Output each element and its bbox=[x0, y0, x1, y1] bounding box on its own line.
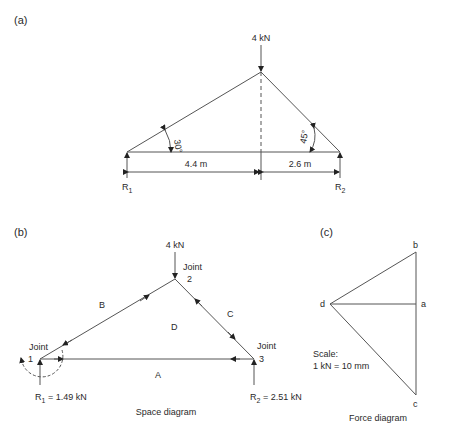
space-d-label: D bbox=[171, 322, 178, 332]
dim-right-label: 2.6 m bbox=[289, 159, 312, 169]
scale-label: Scale: bbox=[313, 349, 338, 359]
space-c-label: C bbox=[227, 309, 234, 319]
joint1-num: 1 bbox=[28, 354, 33, 364]
member-arrow-icon bbox=[140, 295, 149, 301]
load-label-b: 4 kN bbox=[166, 240, 185, 250]
panel-b-label: (b) bbox=[14, 226, 27, 238]
r1-label: R1 bbox=[122, 182, 133, 194]
joint3-num: 3 bbox=[259, 354, 264, 364]
panel-a-label: (a) bbox=[14, 14, 27, 26]
truss-members-b bbox=[40, 279, 254, 359]
angle-arc-30-icon bbox=[165, 130, 171, 152]
angle-45-label: 45° bbox=[298, 129, 310, 145]
point-a-label: a bbox=[421, 299, 426, 309]
space-b-label: B bbox=[99, 300, 105, 310]
truss-diagram: (a) 4 kN 30° 45° 4.4 m 2.6 m R1 R2 (b) 4… bbox=[0, 0, 449, 439]
force-triangle bbox=[330, 252, 416, 395]
member-arrow-icon bbox=[63, 340, 72, 345]
scale-value: 1 kN = 10 mm bbox=[313, 361, 369, 371]
space-diagram-caption: Space diagram bbox=[136, 407, 197, 417]
joint3-label: Joint bbox=[257, 341, 277, 351]
load-label: 4 kN bbox=[252, 33, 271, 43]
joint1-label: Joint bbox=[29, 342, 49, 352]
point-d-label: d bbox=[320, 299, 325, 309]
panel-a: (a) 4 kN 30° 45° 4.4 m 2.6 m R1 R2 bbox=[14, 14, 346, 194]
angle-arc-45-icon bbox=[310, 128, 315, 152]
r2-value-label: R2 = 2.51 kN bbox=[250, 392, 302, 404]
member-arrow-icon bbox=[195, 299, 202, 306]
point-b-label: b bbox=[413, 240, 418, 250]
joint2-label: Joint bbox=[183, 262, 203, 272]
member-arrow-icon bbox=[228, 332, 235, 339]
r1-value-label: R1 = 1.49 kN bbox=[35, 392, 87, 404]
panel-c-label: (c) bbox=[320, 226, 333, 238]
r2-label: R2 bbox=[335, 182, 346, 194]
space-a-label: A bbox=[155, 370, 161, 380]
panel-c: (c) b d a c Scale: 1 kN = 10 mm Force di… bbox=[313, 226, 426, 423]
rotation-arrow-icon bbox=[21, 358, 22, 362]
dim-left-label: 4.4 m bbox=[185, 159, 208, 169]
joint2-num: 2 bbox=[187, 274, 192, 284]
point-c-label: c bbox=[413, 399, 418, 409]
force-diagram-caption: Force diagram bbox=[349, 413, 407, 423]
panel-b: (b) 4 kN Joint 2 Joint 1 Joint 3 B C D A… bbox=[14, 226, 302, 417]
